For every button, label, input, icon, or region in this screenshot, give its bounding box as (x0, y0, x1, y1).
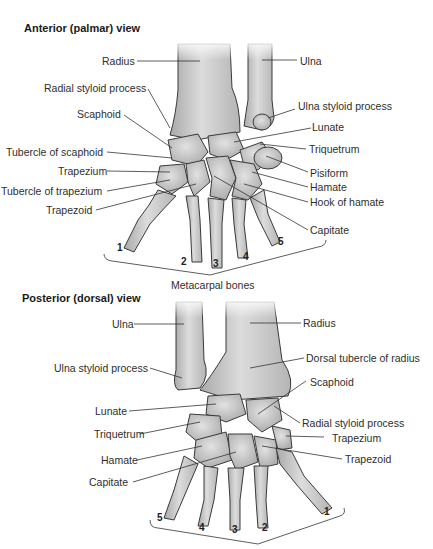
label-tubercle-of-scaphoid: Tubercle of scaphoid (6, 146, 103, 158)
label-scaphoid-posterior: Scaphoid (310, 376, 354, 388)
label-lunate: Lunate (312, 121, 344, 133)
label-trapezium-posterior: Trapezium (332, 432, 381, 444)
posterior-view-title: Posterior (dorsal) view (22, 292, 141, 304)
label-radius: Radius (102, 55, 135, 67)
anterior-view-title: Anterior (palmar) view (24, 22, 140, 34)
label-scaphoid: Scaphoid (77, 108, 121, 120)
metacarpal-number-2: 2 (181, 256, 187, 267)
metacarpal-number-1: 1 (117, 242, 123, 253)
posterior-metacarpal-number-3: 3 (232, 524, 238, 535)
metacarpal-number-4: 4 (243, 251, 249, 262)
label-ulna-styloid-process: Ulna styloid process (298, 100, 392, 112)
posterior-metacarpal-number-5: 5 (157, 512, 163, 523)
label-lunate-posterior: Lunate (95, 405, 127, 417)
posterior-metacarpal-number-1: 1 (324, 506, 330, 517)
label-radial-styloid-process: Radial styloid process (44, 82, 146, 94)
label-tubercle-of-trapezium: Tubercle of trapezium (1, 185, 102, 197)
label-metacarpal-bones: Metacarpal bones (171, 279, 254, 291)
label-hook-of-hamate: Hook of hamate (310, 196, 384, 208)
label-hamate: Hamate (310, 181, 347, 193)
posterior-illustration (164, 298, 332, 530)
label-dorsal-tubercle-of-radius: Dorsal tubercle of radius (306, 352, 420, 364)
wrist-bones-diagram: Anterior (palmar) view Radius Ulna Radia… (0, 0, 433, 549)
posterior-metacarpal-number-4: 4 (199, 522, 205, 533)
posterior-metacarpal-number-2: 2 (262, 522, 268, 533)
label-trapezium: Trapezium (58, 165, 107, 177)
label-radial-styloid-process-posterior: Radial styloid process (302, 417, 404, 429)
label-pisiform: Pisiform (310, 167, 348, 179)
label-ulna-styloid-process-posterior: Ulna styloid process (54, 362, 148, 374)
label-trapezoid: Trapezoid (46, 204, 92, 216)
label-capitate-posterior: Capitate (89, 476, 128, 488)
anterior-illustration (124, 40, 282, 268)
label-radius-posterior: Radius (303, 317, 336, 329)
metacarpal-number-3: 3 (213, 258, 219, 269)
label-ulna: Ulna (300, 55, 322, 67)
label-ulna-posterior: Ulna (112, 318, 134, 330)
label-triquetrum-posterior: Triquetrum (94, 428, 144, 440)
label-trapezoid-posterior: Trapezoid (345, 453, 391, 465)
label-hamate-posterior: Hamate (101, 454, 138, 466)
metacarpal-number-5: 5 (278, 236, 284, 247)
label-triquetrum: Triquetrum (309, 143, 359, 155)
label-capitate: Capitate (310, 224, 349, 236)
